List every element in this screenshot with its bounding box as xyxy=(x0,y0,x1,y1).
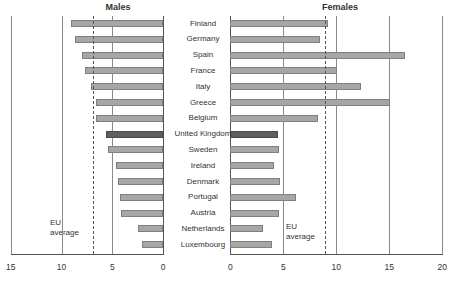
male-bar xyxy=(142,241,163,248)
females-eu-average-line xyxy=(325,16,326,254)
male-bar xyxy=(75,36,163,43)
eu-label-line2: average xyxy=(50,228,79,238)
males-tick-label: 15 xyxy=(1,262,21,272)
males-zero-line xyxy=(163,16,164,254)
eu-label-line2: average xyxy=(286,232,315,242)
category-label: United Kingdom xyxy=(168,129,238,139)
male-bar xyxy=(106,131,163,138)
females-tick-label: 10 xyxy=(326,262,346,272)
female-bar xyxy=(230,52,405,59)
male-bar xyxy=(121,210,163,217)
females-gridline xyxy=(442,16,443,254)
category-label: Italy xyxy=(168,82,238,92)
female-bar xyxy=(230,67,337,74)
male-bar xyxy=(96,99,163,106)
female-bar xyxy=(230,115,318,122)
males-gridline xyxy=(62,16,63,254)
category-label: Luxembourg xyxy=(168,240,238,250)
females-tick-label: 20 xyxy=(432,262,452,272)
category-label: Greece xyxy=(168,98,238,108)
category-label: Ireland xyxy=(168,161,238,171)
males-eu-average-line xyxy=(93,16,94,254)
male-bar xyxy=(85,67,163,74)
category-label: Sweden xyxy=(168,145,238,155)
category-label: Finland xyxy=(168,19,238,29)
category-label: Spain xyxy=(168,50,238,60)
females-panel-title: Females xyxy=(310,2,370,12)
category-label: France xyxy=(168,66,238,76)
category-label: Germany xyxy=(168,34,238,44)
male-bar xyxy=(120,194,163,201)
female-bar xyxy=(230,20,328,27)
female-bar xyxy=(230,99,390,106)
females-tick-label: 15 xyxy=(379,262,399,272)
females-eu-average-label: EU average xyxy=(286,222,315,242)
males-gridline xyxy=(11,16,12,254)
females-tick-label: 5 xyxy=(273,262,293,272)
male-bar xyxy=(118,178,163,185)
male-bar xyxy=(96,115,163,122)
males-eu-average-label: EU average xyxy=(50,218,79,238)
males-tick-label: 5 xyxy=(102,262,122,272)
male-bar xyxy=(116,162,163,169)
males-panel-title: Males xyxy=(88,2,148,12)
category-label: Austria xyxy=(168,208,238,218)
males-tick-label: 10 xyxy=(52,262,72,272)
eu-label-line1: EU xyxy=(286,222,315,232)
males-x-axis xyxy=(11,254,164,255)
male-bar xyxy=(108,146,163,153)
female-bar xyxy=(230,194,296,201)
female-bar xyxy=(230,36,320,43)
females-tick-label: 0 xyxy=(220,262,240,272)
eu-label-line1: EU xyxy=(50,218,79,228)
category-label: Belgium xyxy=(168,113,238,123)
female-bar xyxy=(230,83,360,90)
males-tick-label: 0 xyxy=(153,262,173,272)
females-x-axis xyxy=(230,254,443,255)
male-bar xyxy=(91,83,163,90)
male-bar xyxy=(138,225,163,232)
male-bar xyxy=(71,20,163,27)
category-label: Netherlands xyxy=(168,224,238,234)
category-label: Denmark xyxy=(168,177,238,187)
category-label: Portugal xyxy=(168,192,238,202)
